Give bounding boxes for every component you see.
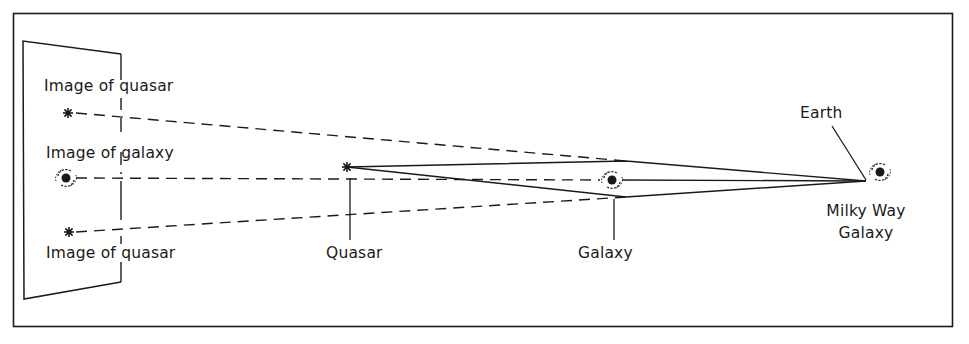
label-quasar: Quasar — [326, 244, 383, 262]
label-image-of-quasar-bottom: Image of quasar — [46, 244, 175, 262]
milky-way-icon — [870, 164, 891, 181]
label-milky-way: Milky Way Galaxy — [816, 202, 916, 242]
image-quasar-bottom-star-icon — [64, 227, 74, 237]
lensing-galaxy-icon — [602, 172, 623, 189]
label-image-of-quasar-top: Image of quasar — [44, 77, 173, 95]
quasar-star-icon — [342, 162, 352, 172]
label-milky-way-line2: Galaxy — [816, 224, 916, 242]
figure-frame — [14, 14, 953, 327]
label-milky-way-line1: Milky Way — [816, 202, 916, 220]
label-galaxy: Galaxy — [578, 244, 633, 262]
apparent-rays — [76, 113, 626, 232]
label-earth: Earth — [800, 104, 843, 122]
image-galaxy-icon — [56, 170, 77, 187]
label-image-of-galaxy: Image of galaxy — [46, 144, 174, 162]
lensing-diagram — [0, 0, 969, 344]
image-quasar-top-star-icon — [63, 108, 73, 118]
